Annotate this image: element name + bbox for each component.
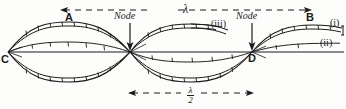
label-half-wavelength: λ 2 xyxy=(187,86,194,105)
label-curve-iii: (iii) xyxy=(211,19,226,29)
node-pointer-right xyxy=(249,23,256,51)
standing-wave-diagram xyxy=(0,0,346,109)
half-wavelength-numerator: λ xyxy=(187,86,194,95)
label-node-left: Node xyxy=(114,11,135,21)
half-wavelength-denominator: 2 xyxy=(187,96,194,105)
label-node-right: Node xyxy=(236,11,257,21)
loop2-lower-ticks xyxy=(148,67,233,82)
label-curve-i: (i) xyxy=(330,18,339,28)
loop1-lower-ticks xyxy=(26,66,111,82)
loop2-lower-envelope xyxy=(130,52,252,82)
label-point-c: C xyxy=(1,54,9,65)
node-pointer-left xyxy=(127,23,134,51)
loop1-upper-ticks xyxy=(26,22,111,38)
label-point-a: A xyxy=(65,12,73,23)
label-point-d: D xyxy=(248,53,256,64)
label-wavelength: λ xyxy=(183,3,188,15)
loop1-upper-envelope xyxy=(8,22,130,52)
loop2-curve-ii xyxy=(130,52,252,62)
label-curve-ii: (ii) xyxy=(320,38,332,48)
loop1-curve-ii xyxy=(8,42,130,52)
loop1-lower-envelope xyxy=(8,52,130,82)
standing-wave-figure: A B C D Node Node λ (iii) (i) (ii) λ 2 xyxy=(0,0,346,109)
loop2-upper-ticks xyxy=(148,24,209,37)
label-point-b: B xyxy=(306,12,314,23)
